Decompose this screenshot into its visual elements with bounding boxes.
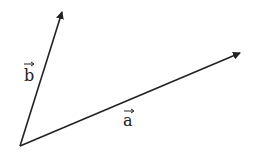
vector-b-label: b [24, 62, 34, 85]
vector-b-letter: b [24, 66, 34, 85]
vector-a-label: a [123, 109, 134, 130]
vector-a-arrow [20, 53, 240, 146]
vector-diagram: b a [0, 0, 258, 157]
vector-a-letter: a [123, 111, 133, 130]
